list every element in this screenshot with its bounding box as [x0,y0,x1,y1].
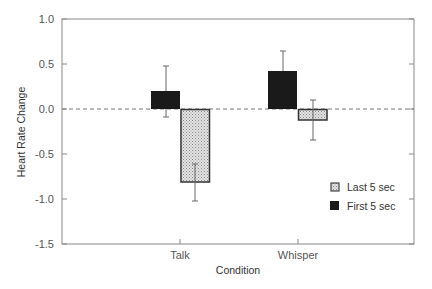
x-tick-label-whisper: Whisper [278,249,319,261]
legend-swatch-last-5-sec [331,183,339,191]
chart: 1.0 0.5 0.0 -0.5 -1.0 -1.5 Heart Rate Ch… [0,0,432,289]
legend-label-last-5-sec: Last 5 sec [347,181,395,193]
legend-swatch-first-5-sec [330,201,339,210]
error-bars [163,51,286,117]
y-tick-label: 1.0 [39,13,54,25]
x-tick-label-talk: Talk [170,249,190,261]
y-tick-label: 0.5 [39,58,54,70]
bars [151,71,327,182]
legend: Last 5 sec First 5 sec [330,181,395,212]
bar-whisper-first-5-sec [268,71,297,109]
y-tick-label: -1.0 [35,193,54,205]
y-tick-labels: 1.0 0.5 0.0 -0.5 -1.0 -1.5 [35,13,54,250]
y-tick-label: -1.5 [35,238,54,250]
y-axis-label: Heart Rate Change [15,87,27,178]
bar-talk-first-5-sec [151,91,180,109]
x-axis-label: Condition [216,264,261,276]
x-ticks [180,239,298,244]
y-tick-label: 0.0 [39,103,54,115]
legend-label-first-5-sec: First 5 sec [347,200,395,212]
y-tick-label: -0.5 [35,148,54,160]
error-bars-front [192,100,316,201]
